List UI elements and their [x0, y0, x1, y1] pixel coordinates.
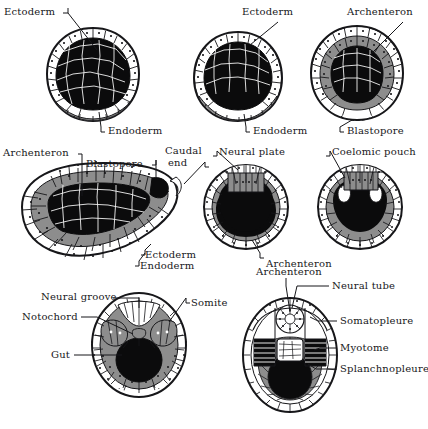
label-splanchnopleure: Splanchnopleure [340, 363, 428, 374]
label-archenteron-1: Archenteron [347, 6, 413, 17]
embryo-development-figure: Ectoderm Endoderm Ectoderm Endoderm Arch… [0, 0, 428, 429]
label-blastopore-2: Blastopore [86, 158, 143, 169]
label-endoderm-1: Endoderm [108, 125, 162, 136]
label-archenteron-4: Archenteron [256, 266, 322, 277]
label-coelomic-pouch: Coelomic pouch [332, 146, 416, 157]
label-neural-groove: Neural groove [41, 291, 117, 302]
label-neural-tube: Neural tube [332, 280, 395, 291]
label-myotome: Myotome [340, 342, 389, 353]
label-somite: Somite [191, 297, 228, 308]
label-archenteron-2: Archenteron [3, 147, 69, 158]
label-endoderm-2: Endoderm [253, 125, 307, 136]
stage-1-drawing [47, 8, 139, 132]
stage-5-drawing [204, 151, 288, 258]
stage-2-drawing [194, 22, 282, 132]
label-blastopore-1: Blastopore [347, 125, 404, 136]
stage-6-drawing [318, 151, 402, 249]
label-gut: Gut [51, 349, 70, 360]
label-caudal-end-line-1: Caudal [165, 145, 202, 156]
label-ectoderm-1: Ectoderm [4, 6, 55, 17]
label-endoderm-3: Endoderm [140, 260, 194, 271]
label-somatopleure: Somatopleure [340, 315, 413, 326]
label-neural-plate: Neural plate [219, 146, 285, 157]
label-notochord: Notochord [22, 311, 78, 322]
label-caudal-end-line-2: end [168, 157, 187, 168]
label-ectoderm-2: Ectoderm [242, 6, 293, 17]
label-ectoderm-3: Ectoderm [145, 249, 196, 260]
stage-8-drawing [241, 278, 338, 414]
stage-7-drawing [74, 293, 190, 397]
stage-3-drawing [311, 22, 403, 132]
